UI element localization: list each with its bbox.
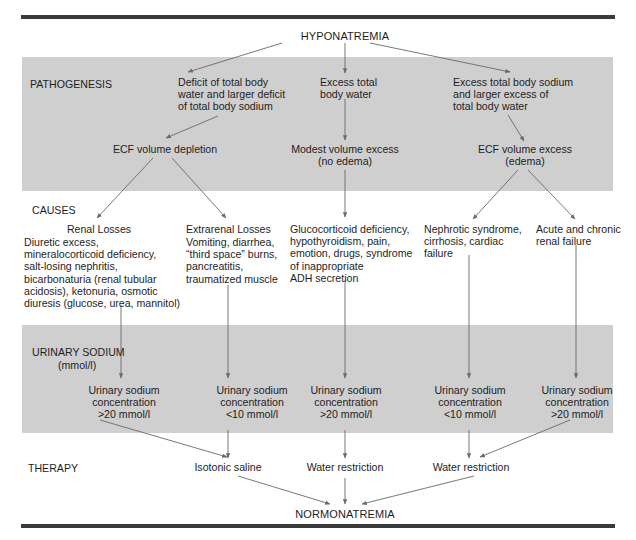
therapy-isotonic-saline: Isotonic saline bbox=[178, 461, 278, 473]
urinary-sodium-water-excess: Urinary sodium concentration >20 mmol/l bbox=[286, 384, 406, 421]
causes-renal-text: Diuretic excess, mineralocorticoid defic… bbox=[24, 236, 180, 309]
causes-extrarenal-heading: Extrarenal Losses bbox=[186, 223, 271, 235]
urinary-sodium-renal: Urinary sodium concentration >20 mmol/l bbox=[64, 384, 184, 421]
pathogenesis-excess-sodium: Excess total body sodium and larger exce… bbox=[453, 76, 573, 113]
therapy-water-restriction-1: Water restriction bbox=[295, 461, 395, 473]
pathogenesis-excess-water: Excess total body water bbox=[320, 76, 377, 100]
top-rule bbox=[21, 15, 615, 19]
section-label-urinary-sodium: URINARY SODIUM bbox=[32, 346, 125, 358]
urinary-sodium-renal-failure: Urinary sodium concentration >20 mmol/l bbox=[517, 384, 636, 421]
hyponatremia-title: HYPONATREMIA bbox=[285, 30, 405, 42]
causes-water-excess-text: Glucocorticoid deficiency, hypothyroidis… bbox=[290, 223, 412, 284]
section-label-pathogenesis: PATHOGENESIS bbox=[30, 78, 112, 90]
section-label-causes: CAUSES bbox=[32, 204, 76, 216]
causes-edema-text: Nephrotic syndrome, cirrhosis, cardiac f… bbox=[424, 223, 522, 260]
therapy-water-restriction-2: Water restriction bbox=[416, 461, 526, 473]
volume-depletion: ECF volume depletion bbox=[100, 143, 230, 155]
volume-excess-edema: ECF volume excess (edema) bbox=[465, 143, 585, 167]
pathogenesis-deficit: Deficit of total body water and larger d… bbox=[178, 76, 285, 113]
causes-renal-heading: Renal Losses bbox=[24, 223, 174, 235]
section-label-therapy: THERAPY bbox=[28, 462, 78, 474]
normonatremia-outcome: NORMONATREMIA bbox=[285, 508, 405, 520]
section-label-urinary-sodium-unit: (mmol/l) bbox=[58, 359, 96, 371]
urinary-sodium-edema: Urinary sodium concentration <10 mmol/l bbox=[410, 384, 530, 421]
causes-renal-failure-text: Acute and chronic renal failure bbox=[536, 223, 621, 247]
volume-modest-excess: Modest volume excess (no edema) bbox=[285, 143, 405, 167]
causes-extrarenal-text: Vomiting, diarrhea, “third space” burns,… bbox=[186, 236, 278, 285]
bottom-rule bbox=[21, 524, 615, 528]
